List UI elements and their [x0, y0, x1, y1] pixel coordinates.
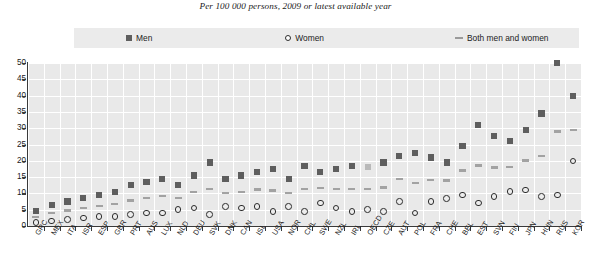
- data-point-swe-circle: [317, 200, 324, 207]
- chart-legend: Men Women Both men and women: [74, 28, 579, 48]
- data-point-svn-square: [491, 133, 497, 139]
- gridline-vertical: [502, 63, 503, 226]
- gridline-vertical: [565, 63, 566, 226]
- data-point-isl-square: [254, 169, 260, 175]
- data-point-aus-dash: [143, 197, 150, 199]
- gridline-vertical: [549, 63, 550, 226]
- data-point-rus-square: [554, 60, 560, 66]
- data-point-irl-dash: [348, 188, 355, 190]
- gridline-vertical: [360, 63, 361, 226]
- data-point-aus-square: [143, 179, 149, 185]
- data-point-prt-circle: [127, 211, 134, 218]
- data-point-irl-circle: [349, 208, 356, 215]
- data-point-fin-square: [507, 138, 513, 144]
- data-point-can-circle: [238, 205, 245, 212]
- data-point-rus-dash: [554, 130, 561, 132]
- y-axis-tick-mark: [22, 79, 26, 80]
- data-point-che-circle: [443, 195, 450, 202]
- data-point-swe-dash: [317, 187, 324, 189]
- data-point-isr-circle: [80, 215, 87, 222]
- gridline-vertical: [202, 63, 203, 226]
- y-axis-tick-mark: [22, 161, 26, 162]
- gridline-horizontal: [28, 145, 581, 146]
- data-point-aut-dash: [396, 178, 403, 180]
- gridline-vertical: [439, 63, 440, 226]
- data-point-fra-square: [428, 154, 434, 160]
- gridline-vertical: [44, 63, 45, 226]
- data-point-oecd-square: [365, 164, 371, 170]
- data-point-gbr-circle: [112, 213, 119, 220]
- data-point-che-square: [444, 159, 450, 165]
- data-point-bel-circle: [459, 192, 466, 199]
- gridline-vertical: [249, 63, 250, 226]
- data-point-svk-dash: [206, 188, 213, 190]
- gridline-vertical: [297, 63, 298, 226]
- plot-area: [28, 63, 581, 226]
- data-point-fra-dash: [427, 179, 434, 181]
- data-point-pol-dash: [412, 182, 419, 184]
- gridline-vertical: [91, 63, 92, 226]
- data-point-grc-dash: [32, 216, 39, 218]
- gridline-horizontal: [28, 63, 581, 64]
- data-point-nzl-dash: [333, 188, 340, 190]
- y-axis-tick-mark: [22, 193, 26, 194]
- data-point-rus-circle: [554, 192, 561, 199]
- gridline-horizontal: [28, 177, 581, 178]
- gridline-vertical: [407, 63, 408, 226]
- data-point-bel-square: [459, 143, 465, 149]
- data-point-dnk-dash: [222, 192, 229, 194]
- men-square-marker-icon: [126, 35, 132, 41]
- data-point-bel-dash: [459, 169, 466, 171]
- gridline-vertical: [233, 63, 234, 226]
- data-point-nor-circle: [285, 203, 292, 210]
- data-point-lux-circle: [159, 210, 166, 217]
- data-point-ita-square: [64, 198, 70, 204]
- data-point-chl-circle: [301, 208, 308, 215]
- data-point-lux-square: [159, 176, 165, 182]
- gridline-vertical: [75, 63, 76, 226]
- data-point-esp-circle: [96, 213, 103, 220]
- chart-subtitle: Per 100 000 persons, 2009 or latest avai…: [0, 1, 591, 11]
- gridline-vertical: [186, 63, 187, 226]
- data-point-deu-dash: [190, 191, 197, 193]
- data-point-chl-square: [301, 163, 307, 169]
- y-axis-tick-mark: [22, 226, 26, 227]
- legend-label-both: Both men and women: [467, 33, 548, 43]
- data-point-prt-dash: [127, 199, 134, 201]
- gridline-vertical: [170, 63, 171, 226]
- data-point-dnk-circle: [222, 203, 229, 210]
- gridline-vertical: [107, 63, 108, 226]
- data-point-dnk-square: [222, 176, 228, 182]
- y-axis-tick-mark: [22, 145, 26, 146]
- legend-item-both: Both men and women: [455, 33, 548, 43]
- data-point-isr-square: [80, 195, 86, 201]
- data-point-jpn-square: [523, 127, 529, 133]
- gridline-vertical: [376, 63, 377, 226]
- data-point-gbr-square: [112, 189, 118, 195]
- data-point-irl-square: [349, 163, 355, 169]
- y-axis-labels: 05101520253035404550: [0, 0, 26, 258]
- data-point-est-square: [475, 122, 481, 128]
- data-point-isl-circle: [254, 203, 261, 210]
- gridline-horizontal: [28, 128, 581, 129]
- data-point-nor-square: [286, 176, 292, 182]
- data-point-est-dash: [475, 164, 482, 166]
- data-point-cze-dash: [380, 186, 387, 188]
- data-point-chl-dash: [301, 188, 308, 190]
- data-point-isl-dash: [254, 188, 261, 190]
- data-point-nor-dash: [285, 192, 292, 194]
- gridline-vertical: [154, 63, 155, 226]
- data-point-esp-square: [96, 192, 102, 198]
- gridline-vertical: [470, 63, 471, 226]
- data-point-nzl-square: [333, 166, 339, 172]
- data-point-ita-dash: [64, 209, 71, 211]
- gridline-horizontal: [28, 79, 581, 80]
- data-point-nld-dash: [175, 197, 182, 199]
- data-point-oecd-circle: [364, 206, 371, 213]
- gridline-vertical: [60, 63, 61, 226]
- gridline-vertical: [455, 63, 456, 226]
- gridline-vertical: [518, 63, 519, 226]
- women-circle-marker-icon: [285, 35, 291, 41]
- gridline-vertical: [486, 63, 487, 226]
- data-point-pol-square: [412, 150, 418, 156]
